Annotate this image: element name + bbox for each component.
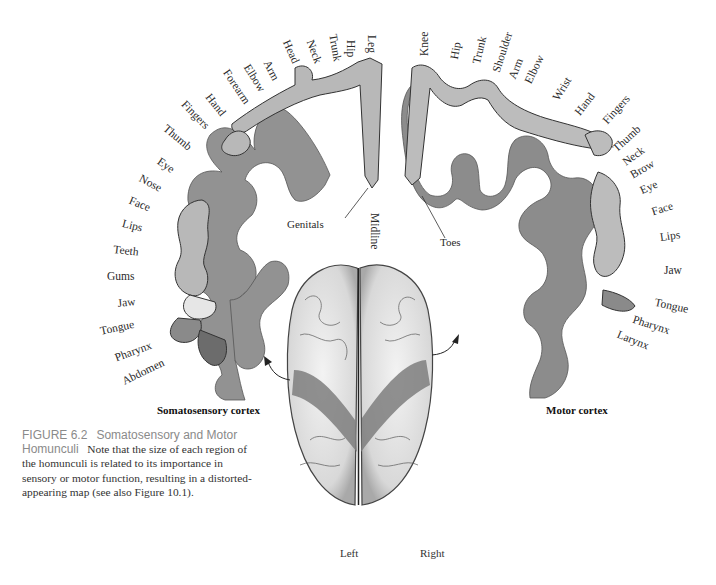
motor-label-jaw: Jaw bbox=[664, 264, 682, 276]
somatosensory-label-leg: Leg bbox=[366, 35, 378, 53]
caption-figure-number: FIGURE 6.2 bbox=[22, 428, 87, 442]
right-hemisphere-label: Right bbox=[420, 547, 444, 559]
midline-label: Midline bbox=[369, 213, 381, 249]
motor-label-knee: Knee bbox=[418, 32, 430, 56]
right-arrow-icon bbox=[432, 340, 455, 355]
somatosensory-cortex-title: Somatosensory cortex bbox=[157, 404, 260, 416]
somatosensory-label-jaw: Jaw bbox=[117, 295, 136, 309]
left-hemisphere-label: Left bbox=[340, 547, 358, 559]
somatosensory-label-gums: Gums bbox=[107, 270, 134, 282]
left-arrow-icon bbox=[268, 362, 290, 380]
genitals-label: Genitals bbox=[287, 218, 324, 230]
homunculus-figure: Leg Hip Trunk Neck Head Arm Elbow Forear… bbox=[0, 0, 716, 585]
motor-cortex-title: Motor cortex bbox=[546, 404, 608, 416]
toes-label: Toes bbox=[440, 236, 461, 248]
motor-homunculus bbox=[405, 65, 635, 311]
somatosensory-label-teeth: Teeth bbox=[113, 243, 140, 258]
somatosensory-label-hip: Hip bbox=[345, 40, 357, 57]
genitals-callout-line bbox=[345, 188, 368, 218]
brain-top-view bbox=[287, 265, 432, 505]
figure-caption: FIGURE 6.2 Somatosensory and Motor Homun… bbox=[22, 428, 254, 499]
